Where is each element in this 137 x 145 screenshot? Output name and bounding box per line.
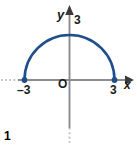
origin-label: O <box>58 78 67 90</box>
figure-container: y x 3 O –3 3 1 <box>0 0 137 145</box>
x-tick-label-minus-3: –3 <box>17 84 30 96</box>
coordinate-plot <box>0 0 137 145</box>
figure-number: 1 <box>4 130 11 142</box>
x-axis-label: x <box>124 79 131 91</box>
y-tick-label-3: 3 <box>74 14 81 26</box>
y-axis-label: y <box>57 8 64 21</box>
x-tick-label-3: 3 <box>110 84 117 96</box>
y-axis-arrow-icon <box>65 5 74 15</box>
